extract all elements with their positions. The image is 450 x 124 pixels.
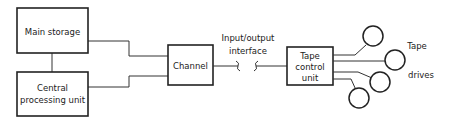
cpu-block: Central processing unit xyxy=(17,72,88,116)
tape-drive-1-wire xyxy=(333,45,366,55)
cpu-channel-connector xyxy=(88,76,168,87)
tape-drives-label-line2: drives xyxy=(408,70,435,80)
main-storage-label: Main storage xyxy=(25,27,80,37)
tape-control-label-line2: control xyxy=(295,62,324,72)
interface-label-line2: interface xyxy=(229,46,267,56)
channel-label: Channel xyxy=(173,61,208,71)
tape-drive-2 xyxy=(385,50,405,70)
cpu-label-line1: Central xyxy=(37,83,68,93)
main-storage-block: Main storage xyxy=(17,8,88,53)
cpu-label-line2: processing unit xyxy=(20,95,86,105)
storage-channel-connector xyxy=(88,41,168,56)
tape-control-unit-block: Tape control unit xyxy=(287,47,333,85)
tape-drive-3 xyxy=(370,72,390,92)
tape-drives-label-line1: Tape xyxy=(406,41,427,51)
io-system-diagram: Main storage Central processing unit Cha… xyxy=(0,0,450,124)
tape-control-label-line1: Tape xyxy=(299,51,320,61)
tape-drive-4 xyxy=(349,88,369,108)
tape-drive-3-wire xyxy=(333,72,372,78)
tape-control-label-line3: unit xyxy=(302,73,319,83)
tape-drive-4-wire xyxy=(333,79,356,90)
io-interface-connector xyxy=(213,61,287,71)
channel-block: Channel xyxy=(168,45,213,85)
interface-label-line1: Input/output xyxy=(222,33,276,43)
tape-drive-1 xyxy=(363,26,383,46)
